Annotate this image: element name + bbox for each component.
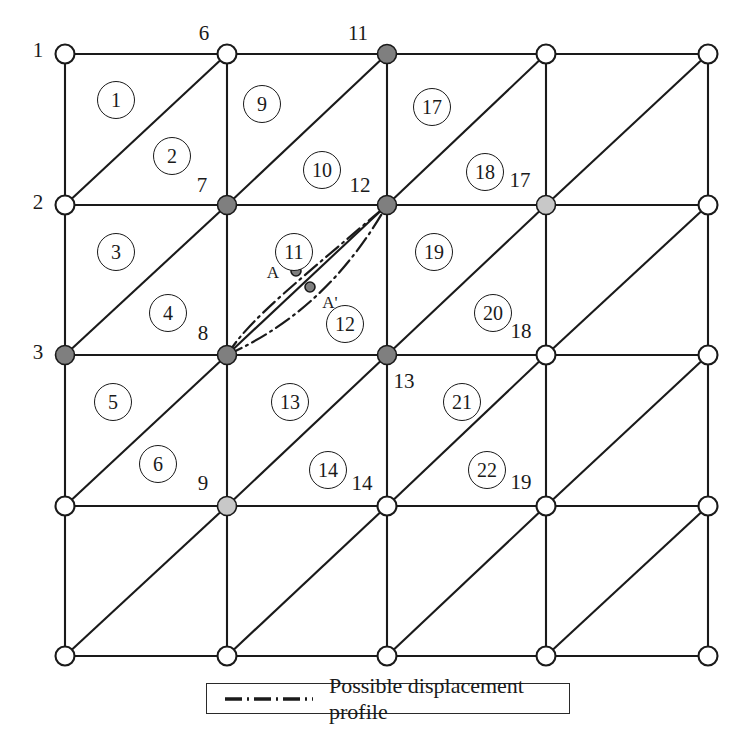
node-marker-n-r0c4	[699, 45, 718, 64]
node-label-7: 7	[197, 173, 208, 198]
node-marker-n-r4c1	[218, 647, 237, 666]
point-a-prime-marker	[305, 282, 315, 292]
element-number-11: 11	[275, 233, 313, 271]
element-number-5: 5	[94, 383, 132, 421]
node-marker-n-r1c3	[537, 196, 556, 215]
node-label-19: 19	[511, 470, 532, 495]
diagonal-r1c3	[546, 205, 708, 355]
node-marker-n-r2c1	[218, 346, 237, 365]
node-marker-n-r2c2	[378, 346, 397, 365]
node-label-8: 8	[198, 321, 209, 346]
node-marker-n-r3c0	[56, 497, 75, 516]
element-number-2: 2	[153, 137, 191, 175]
node-label-13: 13	[394, 369, 415, 394]
element-number-17: 17	[413, 88, 451, 126]
point-a-prime-label: A'	[322, 293, 337, 313]
node-label-18: 18	[511, 319, 532, 344]
element-number-18: 18	[466, 153, 504, 191]
node-marker-n-r4c4	[699, 647, 718, 666]
node-marker-n-r4c2	[378, 647, 397, 666]
node-marker-n-r3c1	[218, 497, 237, 516]
element-number-9: 9	[243, 85, 281, 123]
diagonal-r3c0	[65, 506, 227, 656]
node-marker-n-r3c2	[378, 497, 397, 516]
node-marker-n-r1c2	[378, 196, 397, 215]
node-marker-n-r1c1	[218, 196, 237, 215]
node-label-6: 6	[199, 21, 210, 46]
element-number-6: 6	[139, 445, 177, 483]
node-marker-n-r0c3	[537, 45, 556, 64]
node-label-12: 12	[350, 173, 371, 198]
element-number-13: 13	[271, 383, 309, 421]
node-label-17: 17	[510, 168, 531, 193]
node-label-11: 11	[348, 21, 368, 46]
node-marker-n-r2c0	[56, 346, 75, 365]
diagonal-r3c1	[227, 506, 387, 656]
element-number-3: 3	[97, 233, 135, 271]
node-marker-n-r3c3	[537, 497, 556, 516]
diagonal-r3c2	[387, 506, 546, 656]
element-number-4: 4	[149, 294, 187, 332]
node-marker-n-r3c4	[699, 497, 718, 516]
node-marker-n-r0c2	[378, 45, 397, 64]
node-marker-n-r2c3	[537, 346, 556, 365]
element-number-22: 22	[468, 451, 506, 489]
legend-box: Possible displacement profile	[206, 683, 570, 714]
node-marker-n-r4c0	[56, 647, 75, 666]
diagonal-r2c3	[546, 355, 708, 506]
element-number-10: 10	[303, 151, 341, 189]
node-label-9: 9	[198, 471, 209, 496]
node-marker-n-r1c0	[56, 196, 75, 215]
node-marker-n-r4c3	[537, 647, 556, 666]
node-label-2: 2	[33, 190, 44, 215]
legend-label: Possible displacement profile	[315, 673, 569, 725]
diagonal-r1c1	[227, 205, 387, 355]
node-label-3: 3	[33, 340, 44, 365]
fem-mesh-figure: 161127121738131891419 123456910111213141…	[0, 0, 750, 754]
node-marker-n-r1c4	[699, 196, 718, 215]
element-number-20: 20	[474, 294, 512, 332]
node-label-1: 1	[33, 38, 44, 63]
node-marker-n-r2c4	[699, 346, 718, 365]
diagonal-r0c3	[546, 54, 708, 205]
diagonal-r3c3	[546, 506, 708, 656]
point-a-label: A	[267, 263, 279, 283]
node-marker-n-r0c0	[56, 45, 75, 64]
node-label-14: 14	[352, 471, 373, 496]
element-number-1: 1	[97, 81, 135, 119]
element-number-14: 14	[309, 451, 347, 489]
element-number-19: 19	[415, 233, 453, 271]
node-marker-n-r0c1	[218, 45, 237, 64]
legend-line-sample	[223, 689, 315, 709]
element-number-21: 21	[443, 383, 481, 421]
